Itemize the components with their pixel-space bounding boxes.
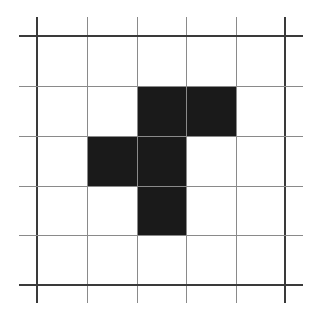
filled-cell <box>87 136 137 186</box>
grid-line-horizontal <box>19 186 303 187</box>
filled-cell <box>137 136 186 186</box>
grid-border-line-horizontal <box>19 35 303 37</box>
filled-cell <box>186 86 236 136</box>
grid-line-vertical <box>186 17 187 303</box>
filled-cell <box>137 186 186 235</box>
filled-cell <box>137 86 186 136</box>
grid-line-vertical <box>236 17 237 303</box>
grid-border-line-vertical <box>36 17 38 303</box>
grid-border-line-vertical <box>284 17 286 303</box>
grid-line-horizontal <box>19 86 303 87</box>
grid-line-vertical <box>137 17 138 303</box>
grid-line-horizontal <box>19 136 303 137</box>
grid-border-line-horizontal <box>19 284 303 286</box>
grid-board <box>0 0 320 318</box>
grid-line-horizontal <box>19 235 303 236</box>
grid-line-vertical <box>87 17 88 303</box>
